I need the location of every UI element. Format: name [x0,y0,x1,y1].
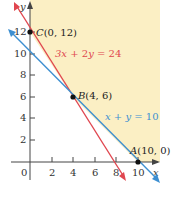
y-tick-label: 4 [20,112,26,123]
y-tick-label: 2 [20,134,26,145]
point-a-coords: (10, 0) [137,145,170,156]
feasible-region [30,0,160,162]
point-a-label: A(10, 0) [129,145,171,156]
x-tick-label: 4 [70,167,76,178]
y-tick-label: 6 [20,91,26,102]
point-b-label: B(4, 6) [77,90,112,101]
linear-programming-chart: 0 2 4 6 8 10 x 2 4 6 8 10 12 y C(0, 12) … [0,0,175,197]
point-a [135,159,140,164]
point-c-coords: (0, 12) [44,27,77,38]
point-c-label: C(0, 12) [36,27,77,38]
x-ticks [52,157,138,162]
y-ticks [30,32,35,140]
point-b-coords: (4, 6) [85,90,112,101]
y-tick-label: 8 [20,69,26,80]
y-tick-label: 12 [14,26,27,37]
x-tick-label: 2 [49,167,55,178]
x-tick-label: 10 [132,167,145,178]
x-tick-label: 6 [92,167,98,178]
equation-blue-label: x + y = 10 [105,111,159,122]
red-arrow-icon [119,172,126,181]
equation-red-label: 3x + 2y = 24 [55,48,121,59]
origin-label: 0 [21,167,27,178]
point-c [27,29,32,34]
y-tick-label: 10 [14,48,27,59]
point-b [70,94,75,99]
